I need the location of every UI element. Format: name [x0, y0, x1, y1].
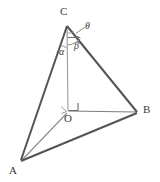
construction-lines: [22, 26, 136, 160]
vertex-label-B: B: [143, 104, 150, 115]
edge-CO: [67, 26, 68, 111]
angle-label-beta: β: [74, 41, 79, 51]
geometry-canvas: [0, 0, 160, 182]
edge-CB: [67, 26, 137, 112]
angle-label-alpha: α: [59, 47, 64, 57]
vertex-label-A: A: [9, 165, 17, 176]
right-angle-square-at-O: [69, 103, 78, 111]
edge-OB: [68, 111, 136, 112]
angle-label-theta: θ: [85, 21, 90, 31]
vertex-label-C: C: [60, 6, 67, 17]
geometry-figure: C B A O θ β α: [0, 0, 160, 182]
theta-callout-line: [76, 27, 85, 34]
vertex-label-O: O: [64, 113, 72, 124]
outline-edges: [21, 26, 137, 161]
edge-AB: [21, 113, 137, 161]
